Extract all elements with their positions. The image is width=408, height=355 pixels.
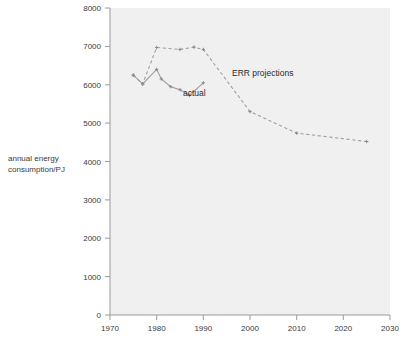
x-axis-tick-labels: 1970 1980 1990 2000 2010 2020 2030 <box>101 324 399 333</box>
y-tick-label: 0 <box>97 311 102 320</box>
x-tick-label: 1970 <box>101 324 119 333</box>
x-tick-label: 2000 <box>241 324 259 333</box>
x-tick-label: 2020 <box>334 324 352 333</box>
chart-svg: 0 1000 2000 3000 4000 5000 6000 7000 800… <box>0 0 408 355</box>
x-axis-ticks <box>110 315 390 320</box>
y-tick-label: 5000 <box>83 119 101 128</box>
y-tick-label: 3000 <box>83 196 101 205</box>
y-axis-title-line2: consumption/PJ <box>8 165 65 174</box>
x-tick-label: 2030 <box>381 324 399 333</box>
y-tick-label: 7000 <box>83 42 101 51</box>
plot-area-background <box>110 8 390 315</box>
annotation-actual: actual <box>183 88 206 98</box>
y-tick-label: 1000 <box>83 273 101 282</box>
x-tick-label: 1990 <box>194 324 212 333</box>
y-tick-label: 8000 <box>83 4 101 13</box>
y-tick-label: 6000 <box>83 81 101 90</box>
energy-consumption-chart: 0 1000 2000 3000 4000 5000 6000 7000 800… <box>0 0 408 355</box>
y-axis-tick-labels: 0 1000 2000 3000 4000 5000 6000 7000 800… <box>83 4 101 320</box>
y-tick-label: 2000 <box>83 234 101 243</box>
y-axis-title-line1: annual energy <box>8 154 59 163</box>
x-tick-label: 2010 <box>288 324 306 333</box>
y-axis-ticks <box>105 8 110 315</box>
y-tick-label: 4000 <box>83 158 101 167</box>
annotation-err-projections: ERR projections <box>232 68 293 78</box>
x-tick-label: 1980 <box>148 324 166 333</box>
